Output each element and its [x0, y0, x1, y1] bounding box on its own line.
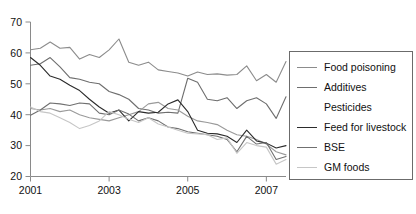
legend-swatch-icon — [297, 127, 317, 128]
legend-item-label: GM foods — [324, 162, 370, 173]
legend-swatch-icon — [297, 167, 317, 168]
legend-item[interactable]: Additives — [290, 77, 412, 97]
legend-item-label: Additives — [324, 82, 367, 93]
y-tick-label: 60 — [10, 47, 22, 59]
y-tick-label: 70 — [10, 16, 22, 28]
x-tick-label: 2001 — [19, 184, 43, 196]
y-axis: 203040506070 — [10, 16, 30, 183]
line-chart-figure: 203040506070 2001200320052007 Food poiso… — [0, 0, 416, 214]
legend-item-label: Feed for livestock — [324, 122, 406, 133]
legend-item[interactable]: GM foods — [290, 157, 412, 177]
legend-item-label: BSE — [324, 142, 345, 153]
x-tick-label: 2003 — [97, 184, 121, 196]
y-tick-label: 30 — [10, 139, 22, 151]
y-tick-label: 50 — [10, 78, 22, 90]
y-tick-label: 20 — [10, 170, 22, 182]
y-tick-label: 40 — [10, 109, 22, 121]
legend-item-label: Food poisoning — [324, 62, 396, 73]
legend-item-label: Pesticides — [324, 102, 372, 113]
chart-legend: Food poisoningAdditivesPesticidesFeed fo… — [289, 51, 413, 180]
legend-swatch-icon — [297, 107, 317, 108]
legend-item[interactable]: Feed for livestock — [290, 117, 412, 137]
x-axis: 2001200320052007 — [19, 177, 286, 197]
legend-swatch-icon — [297, 87, 317, 88]
x-tick-label: 2007 — [255, 184, 279, 196]
legend-item[interactable]: Pesticides — [290, 97, 412, 117]
x-tick-label: 2005 — [176, 184, 200, 196]
legend-item[interactable]: BSE — [290, 137, 412, 157]
legend-swatch-icon — [297, 67, 317, 68]
legend-swatch-icon — [297, 147, 317, 148]
legend-item[interactable]: Food poisoning — [290, 57, 412, 77]
data-series-group — [31, 39, 287, 164]
series-line — [31, 102, 287, 155]
series-line — [31, 107, 287, 164]
